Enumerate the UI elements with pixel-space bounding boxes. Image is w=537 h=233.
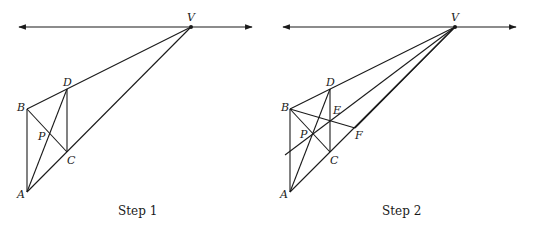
caption-step-2: Step 2	[382, 204, 421, 218]
label-D: D	[325, 76, 335, 89]
label-A: A	[279, 188, 288, 201]
line-BV	[27, 27, 191, 109]
label-D: D	[62, 76, 72, 89]
label-C: C	[67, 154, 76, 167]
label-B: B	[16, 101, 25, 114]
line-BV	[290, 27, 455, 109]
label-F: F	[354, 129, 363, 142]
label-A: A	[16, 188, 25, 201]
label-P: P	[299, 128, 308, 141]
diagonal-AD	[27, 89, 67, 192]
label-V: V	[187, 11, 196, 24]
perspective-diagram: V B D P C A Step 1 V B D E P F C A Step …	[0, 0, 537, 233]
step-2-figure: V B D E P F C A Step 2	[279, 11, 516, 218]
line-VE-through-P	[285, 27, 455, 155]
diagonal-AD	[290, 89, 330, 192]
diagonal-BC	[27, 109, 67, 152]
label-V: V	[451, 11, 460, 24]
caption-step-1: Step 1	[118, 204, 157, 218]
label-E: E	[332, 104, 341, 117]
line-AV	[27, 27, 191, 192]
line-BF-through-E	[290, 109, 355, 128]
diagonal-BC	[290, 109, 330, 152]
label-B: B	[280, 101, 289, 114]
step-1-figure: V B D P C A Step 1	[16, 11, 252, 218]
line-VF	[355, 27, 455, 128]
label-P: P	[37, 130, 46, 143]
label-C: C	[330, 154, 339, 167]
